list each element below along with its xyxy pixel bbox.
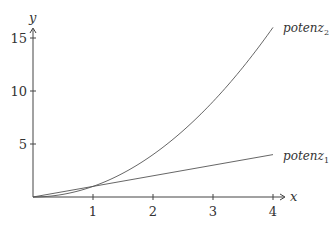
series-label-potenz_1: potenz1: [283, 149, 329, 165]
series-line-potenz_2: [33, 27, 273, 197]
x-axis-label: x: [290, 189, 298, 204]
series-lines: [33, 27, 273, 197]
x-ticks: 1234: [89, 194, 277, 219]
series-labels: potenz1potenz2: [283, 21, 329, 164]
y-tick-label: 10: [10, 84, 27, 99]
series-line-potenz_1: [33, 155, 273, 197]
series-label-potenz_2: potenz2: [283, 21, 329, 37]
y-tick-label: 5: [19, 137, 27, 152]
x-tick-label: 4: [269, 204, 277, 219]
x-tick-label: 3: [209, 204, 217, 219]
y-axis-label: y: [28, 10, 37, 25]
chart: x y 1234 51015 potenz1potenz2: [0, 0, 331, 226]
y-ticks: 51015: [10, 31, 36, 152]
x-tick-label: 2: [149, 204, 157, 219]
x-axis: x: [33, 189, 298, 204]
y-tick-label: 15: [10, 31, 27, 46]
x-tick-label: 1: [89, 204, 97, 219]
